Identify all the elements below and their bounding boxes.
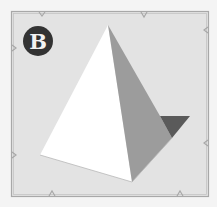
- figure-panel: B: [0, 0, 217, 207]
- figure-label-badge: B: [23, 26, 53, 56]
